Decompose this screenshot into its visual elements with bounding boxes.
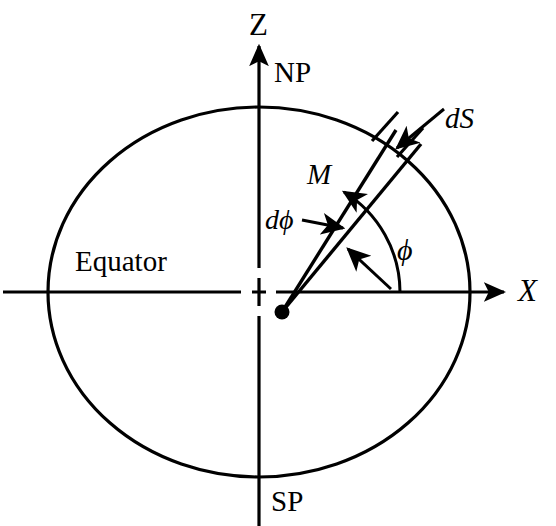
magnetization-label: M xyxy=(307,160,331,189)
source-dot xyxy=(275,305,290,320)
surface-element-label: dS xyxy=(445,104,474,133)
z-axis-label: Z xyxy=(249,9,268,40)
x-axis-label: X xyxy=(518,275,537,306)
phi-angle-arc xyxy=(344,192,400,292)
ds-tick-upper xyxy=(372,112,398,141)
angle-increment-label: dϕ xyxy=(265,206,294,234)
ds-pointer-arrow xyxy=(397,109,444,148)
south-pole-label: SP xyxy=(271,487,303,516)
wedge-interior-arrow xyxy=(348,249,391,289)
ds-tick-lower xyxy=(397,128,423,157)
figure-container: Z NP SP X Equator M dS dϕ ϕ xyxy=(0,0,556,526)
azimuth-angle-label: ϕ xyxy=(397,235,413,265)
wedge-edge-m xyxy=(282,130,396,312)
north-pole-label: NP xyxy=(274,58,311,87)
equator-label: Equator xyxy=(75,247,167,276)
